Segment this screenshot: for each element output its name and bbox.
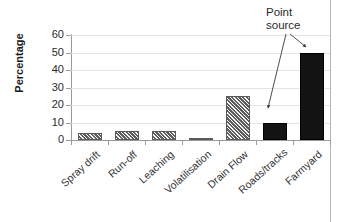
annotation-line-1: Point (266, 6, 326, 19)
bar-roads-tracks (263, 123, 287, 141)
y-tick-label-text: 50 (42, 47, 64, 58)
y-axis-title: Percentage (13, 18, 25, 108)
y-tick-label-text: 30 (42, 82, 64, 93)
gridline (71, 123, 330, 124)
bar-chart-figure: Percentage 0102030405060 Spray driftRun-… (0, 0, 347, 222)
y-tick-label: 10 (40, 117, 64, 128)
x-axis-line (71, 140, 331, 141)
gridline (71, 53, 330, 54)
y-tick-label-text: 10 (42, 117, 64, 128)
bar-spray-drift (78, 133, 102, 140)
y-tick-label: 20 (40, 99, 64, 110)
y-tick-label-text: 60 (42, 29, 64, 40)
point-source-annotation: Point source (266, 6, 326, 32)
x-tick-mark (219, 141, 220, 145)
x-tick-mark (145, 141, 146, 145)
gridline (71, 88, 330, 89)
y-tick-label-text: 0 (42, 134, 64, 145)
bar-volatilisation (189, 138, 213, 140)
x-tick-mark (256, 141, 257, 145)
x-tick-mark (330, 141, 331, 145)
y-tick-label: 50 (40, 47, 64, 58)
bar-farmyard (300, 53, 324, 141)
annotation-line-2: source (266, 19, 326, 32)
y-tick-label-text: 40 (42, 64, 64, 75)
gridline (71, 70, 330, 71)
x-tick-mark (182, 141, 183, 145)
y-tick-label-text: 20 (42, 99, 64, 110)
bar-drain-flow (226, 96, 250, 140)
plot-area (71, 35, 330, 140)
x-tick-mark (293, 141, 294, 145)
x-tick-mark (108, 141, 109, 145)
y-tick-label: 60 (40, 29, 64, 40)
bar-run-off (115, 131, 139, 140)
y-tick-label: 40 (40, 64, 64, 75)
plot-frame-right-border (330, 0, 331, 222)
bar-leaching (152, 131, 176, 140)
gridline (71, 35, 330, 36)
gridline (71, 105, 330, 106)
x-tick-mark (71, 141, 72, 145)
y-tick-label: 30 (40, 82, 64, 93)
y-tick-label: 0 (40, 134, 64, 145)
